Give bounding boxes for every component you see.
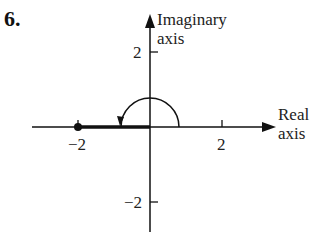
imaginary-label-1: Imaginary [157,10,227,29]
dot-at-neg2 [74,123,82,131]
real-label-1: Real [278,105,309,124]
real-label-2: axis [278,124,305,143]
imaginary-label-2: axis [157,29,184,48]
tick-label-y-neg2: −2 [124,193,142,212]
complex-plane-diagram: Imaginary axis Real axis −2 2 2 −2 [0,0,319,246]
arc-arrow-icon [117,116,124,126]
tick-label-x-2: 2 [217,135,226,154]
real-axis-arrow-icon [262,122,276,132]
tick-label-x-neg2: −2 [68,135,86,154]
imaginary-axis-arrow-icon [145,14,155,28]
tick-label-y-2: 2 [133,43,142,62]
